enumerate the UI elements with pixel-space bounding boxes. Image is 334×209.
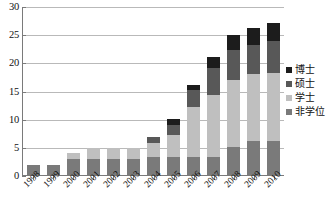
legend-item[interactable]: 非学位 <box>286 105 334 118</box>
bar-segment[interactable] <box>267 41 280 74</box>
bar-segment[interactable] <box>87 148 100 159</box>
bar-segment[interactable] <box>207 95 220 157</box>
legend-item[interactable]: 硕士 <box>286 77 334 90</box>
y-axis: 051015202530 <box>0 7 19 176</box>
bar-segment[interactable] <box>167 125 180 136</box>
y-tick-label: 30 <box>9 2 19 13</box>
bar-segment[interactable] <box>187 107 200 157</box>
legend-label: 博士 <box>295 65 315 75</box>
chart-legend: 博士硕士学士非学位 <box>286 63 334 119</box>
bar-group[interactable] <box>247 28 260 176</box>
bar-segment[interactable] <box>227 35 240 51</box>
bar-segment[interactable] <box>147 137 160 144</box>
bar-group[interactable] <box>227 35 240 176</box>
bar-segment[interactable] <box>227 80 240 147</box>
y-tick-mark <box>22 92 26 93</box>
bar-group[interactable] <box>207 57 220 176</box>
bar-group[interactable] <box>187 85 200 176</box>
y-tick-mark <box>22 35 26 36</box>
y-tick-label: 25 <box>9 30 19 41</box>
bar-segment[interactable] <box>147 143 160 157</box>
legend-label: 硕士 <box>295 79 315 89</box>
y-tick-mark <box>22 63 26 64</box>
bar-segment[interactable] <box>227 50 240 79</box>
y-tick-mark <box>22 148 26 149</box>
bar-segment[interactable] <box>247 74 260 141</box>
y-tick-label: 15 <box>9 86 19 97</box>
y-tick-mark <box>22 176 26 177</box>
bars-layer <box>23 7 284 176</box>
bar-group[interactable] <box>267 23 280 176</box>
bar-segment[interactable] <box>207 57 220 69</box>
bar-group[interactable] <box>167 119 180 176</box>
legend-label: 学士 <box>295 93 315 103</box>
legend-swatch-icon <box>286 109 292 115</box>
legend-label: 非学位 <box>295 107 325 117</box>
bar-segment[interactable] <box>267 23 280 41</box>
x-axis: 1998199920002001200220032004200520062007… <box>23 176 284 209</box>
legend-item[interactable]: 学士 <box>286 91 334 104</box>
bar-segment[interactable] <box>267 73 280 140</box>
y-tick-mark <box>22 120 26 121</box>
y-tick-label: 10 <box>9 114 19 125</box>
bar-segment[interactable] <box>187 90 200 107</box>
y-tick-label: 20 <box>9 58 19 69</box>
bar-segment[interactable] <box>207 68 220 95</box>
legend-swatch-icon <box>286 67 292 73</box>
bar-segment[interactable] <box>107 148 120 159</box>
bar-segment[interactable] <box>247 28 260 45</box>
y-tick-mark <box>22 7 26 8</box>
stacked-bar-chart: 051015202530 199819992000200120022003200… <box>0 0 334 209</box>
legend-item[interactable]: 博士 <box>286 63 334 76</box>
bar-segment[interactable] <box>167 135 180 157</box>
legend-swatch-icon <box>286 95 292 101</box>
y-tick-label: 0 <box>14 171 19 182</box>
y-tick-label: 5 <box>14 143 19 154</box>
legend-swatch-icon <box>286 81 292 87</box>
bar-segment[interactable] <box>247 45 260 74</box>
bar-segment[interactable] <box>127 148 140 159</box>
